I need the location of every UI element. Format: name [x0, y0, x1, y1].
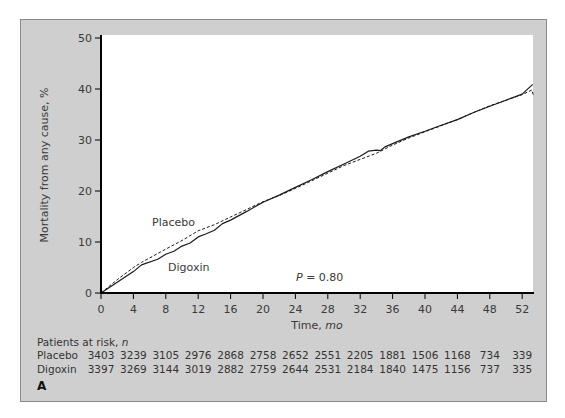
risk-cell: 3239 [120, 349, 147, 361]
x-axis-title-main: Time, [290, 319, 325, 332]
y-tick-label: 30 [78, 134, 92, 147]
x-ticks: 0481216202428323640444852 [98, 293, 530, 316]
risk-cell: 339 [512, 349, 532, 361]
y-tick-label: 0 [85, 287, 92, 300]
risk-cell: 2868 [217, 349, 244, 361]
x-tick-label: 48 [483, 303, 497, 316]
y-tick-label: 50 [78, 32, 92, 45]
risk-cell: 1168 [444, 349, 471, 361]
x-tick-label: 32 [353, 303, 367, 316]
digoxin-label: Digoxin [168, 261, 209, 274]
x-tick-label: 16 [224, 303, 238, 316]
y-ticks: 01020304050 [78, 32, 101, 300]
risk-cell: 2976 [185, 349, 212, 361]
risk-cell: 734 [480, 349, 500, 361]
risk-cell: 1156 [444, 363, 471, 375]
x-tick-label: 52 [515, 303, 529, 316]
risk-table-title-n: n [122, 336, 129, 348]
risk-cell: 3269 [120, 363, 147, 375]
risk-cell: 3403 [88, 349, 115, 361]
p-value-annotation: P = 0.80 [296, 271, 343, 284]
risk-cell: 3397 [88, 363, 115, 375]
risk-cell: 2882 [217, 363, 244, 375]
risk-cell: 3019 [185, 363, 212, 375]
risk-cell: 2759 [250, 363, 277, 375]
risk-cell: 2184 [347, 363, 374, 375]
x-tick-label: 24 [288, 303, 302, 316]
risk-cell: 2531 [314, 363, 341, 375]
x-tick-label: 44 [450, 303, 464, 316]
risk-cell: 2644 [282, 363, 309, 375]
risk-cell: 2205 [347, 349, 374, 361]
risk-cell: 1506 [412, 349, 439, 361]
x-tick-label: 8 [162, 303, 169, 316]
p-value-text: = 0.80 [303, 271, 344, 284]
risk-cell: 3105 [152, 349, 179, 361]
risk-table-title: Patients at risk, n [37, 336, 128, 348]
risk-cell: 2551 [314, 349, 341, 361]
risk-table-title-main: Patients at risk, [37, 336, 122, 348]
y-tick-label: 40 [78, 83, 92, 96]
risk-cell: 737 [480, 363, 500, 375]
x-tick-label: 40 [418, 303, 432, 316]
panel-label: A [37, 379, 47, 393]
mortality-chart: 01020304050 0481216202428323640444852 Mo… [0, 0, 565, 418]
risk-cell: 1840 [379, 363, 406, 375]
placebo-label: Placebo [152, 216, 195, 229]
x-tick-label: 28 [321, 303, 335, 316]
x-tick-label: 20 [256, 303, 270, 316]
risk-cell: 2652 [282, 349, 309, 361]
risk-cell: 1881 [379, 349, 406, 361]
x-tick-label: 4 [130, 303, 137, 316]
risk-cell: 1475 [412, 363, 439, 375]
y-tick-label: 20 [78, 185, 92, 198]
risk-cell: 3144 [152, 363, 179, 375]
x-tick-label: 36 [386, 303, 400, 316]
y-tick-label: 10 [78, 236, 92, 249]
risk-cell: 335 [512, 363, 532, 375]
x-tick-label: 12 [191, 303, 205, 316]
risk-row-label: Digoxin [37, 363, 77, 375]
x-axis-title-unit: mo [325, 319, 343, 332]
risk-row-label: Placebo [37, 349, 78, 361]
risk-table: Placebo340332393105297628682758265225512… [37, 349, 532, 375]
x-tick-label: 0 [98, 303, 105, 316]
y-axis-title: Mortality from any cause, % [38, 88, 51, 243]
x-axis-title: Time, mo [290, 319, 343, 332]
risk-cell: 2758 [250, 349, 277, 361]
